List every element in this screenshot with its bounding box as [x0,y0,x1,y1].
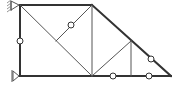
hinge-icon [146,73,152,79]
truss-member [92,41,131,76]
hinge-icon [68,22,74,28]
fixed-support-icon [7,0,19,12]
hinge-icon [148,56,154,62]
truss-member [56,5,92,41]
pin-support-icon [12,70,19,82]
hinge-nodes [17,22,154,79]
hinge-icon [110,73,116,79]
truss-diagram [0,0,172,90]
hinge-icon [17,38,23,44]
truss-members [20,5,171,76]
